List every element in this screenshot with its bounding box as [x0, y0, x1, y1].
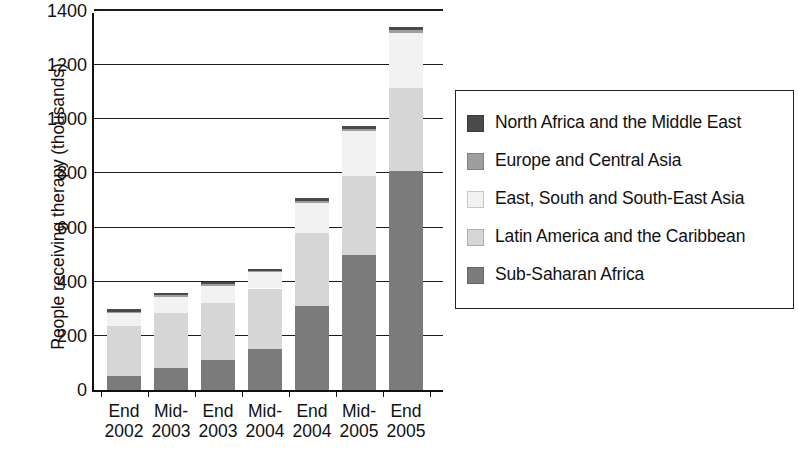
y-tick-label: 800	[27, 164, 87, 182]
bar-segment	[342, 131, 376, 176]
bar-segment	[201, 284, 235, 286]
bar-segment	[248, 289, 282, 350]
legend-swatch-icon	[467, 153, 484, 170]
gridline: 1400	[94, 9, 443, 11]
bar-segment	[107, 311, 141, 313]
bar-segment	[154, 293, 188, 295]
bar-segment	[342, 129, 376, 132]
bar-segment	[154, 368, 188, 390]
bar-segment	[295, 201, 329, 204]
bar-segment	[389, 171, 423, 390]
y-tick-label: 600	[27, 219, 87, 237]
bar-segment	[342, 176, 376, 255]
bar-segment	[107, 313, 141, 327]
bars-layer	[94, 13, 443, 390]
x-tick	[383, 390, 384, 397]
x-tick	[336, 390, 337, 397]
y-tick-label: 1000	[27, 110, 87, 128]
legend-item-label: North Africa and the Middle East	[495, 114, 741, 132]
plot-area: 00200400600800100012001400 End2002Mid-20…	[92, 13, 443, 392]
bar-segment	[389, 88, 423, 171]
legend-item[interactable]: Europe and Central Asia	[456, 142, 793, 180]
y-tick-label: 200	[27, 327, 87, 345]
bar-segment	[295, 233, 329, 306]
legend-swatch-icon	[467, 115, 484, 132]
x-tick	[101, 390, 102, 397]
bar-segment	[201, 360, 235, 390]
bar-segment	[201, 286, 235, 304]
bar-segment	[107, 376, 141, 390]
legend-item[interactable]: Latin America and the Caribbean	[456, 218, 793, 256]
bar-segment	[389, 33, 423, 88]
x-tick-label: End2005	[371, 402, 441, 441]
bar-segment	[154, 295, 188, 297]
bar-segment	[295, 203, 329, 233]
bar-segment	[295, 306, 329, 390]
bar-segment	[154, 313, 188, 368]
legend-item[interactable]: Sub-Saharan Africa	[456, 256, 793, 294]
bar-segment	[342, 126, 376, 129]
y-tick-label: 1200	[27, 56, 87, 74]
bar-segment	[154, 297, 188, 313]
legend-item[interactable]: North Africa and the Middle East	[456, 104, 793, 142]
bar-segment	[107, 309, 141, 311]
bar-segment	[389, 30, 423, 33]
bar-segment	[201, 282, 235, 284]
x-tick	[289, 390, 290, 397]
bar-segment	[248, 349, 282, 390]
y-tick-label: 1400	[27, 2, 87, 20]
x-tick	[148, 390, 149, 397]
bar-segment	[295, 198, 329, 201]
legend-item-label: Europe and Central Asia	[495, 152, 681, 170]
legend: North Africa and the Middle EastEurope a…	[455, 90, 794, 309]
y-tick-label: 400	[27, 273, 87, 291]
legend-swatch-icon	[467, 267, 484, 284]
bar-segment	[389, 27, 423, 30]
legend-swatch-icon	[467, 229, 484, 246]
x-tick	[195, 390, 196, 397]
legend-item-label: East, South and South-East Asia	[495, 190, 744, 208]
legend-item-label: Sub-Saharan Africa	[495, 266, 644, 284]
legend-swatch-icon	[467, 191, 484, 208]
y-tick-label: 0	[27, 381, 87, 399]
bar-segment	[201, 303, 235, 360]
bar-segment	[248, 269, 282, 271]
bar-segment	[248, 272, 282, 288]
bar-segment	[248, 271, 282, 273]
bar-segment	[107, 326, 141, 376]
legend-item-label: Latin America and the Caribbean	[495, 228, 745, 246]
stacked-bar-chart: People receiving therapy (thousands) 002…	[0, 0, 798, 455]
x-tick	[430, 390, 431, 397]
x-tick	[242, 390, 243, 397]
legend-item[interactable]: East, South and South-East Asia	[456, 180, 793, 218]
bar-segment	[342, 255, 376, 390]
